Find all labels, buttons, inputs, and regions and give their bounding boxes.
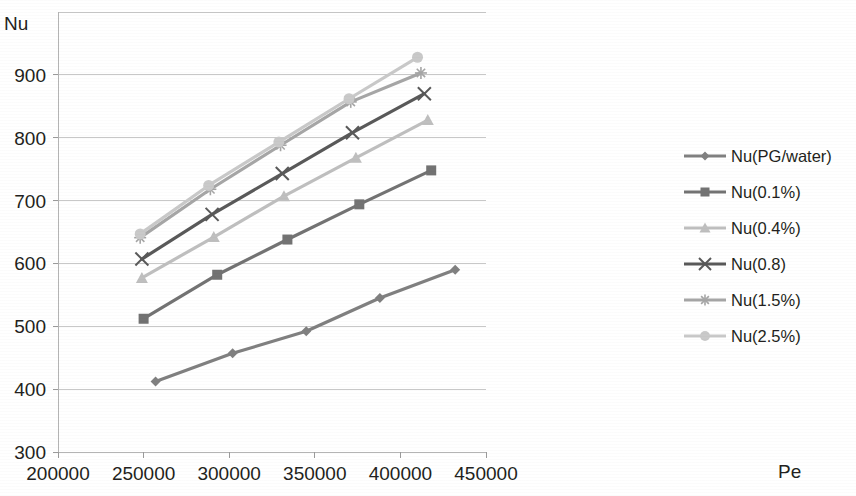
x-tick-label: 200000 <box>26 463 89 484</box>
legend-item-2[interactable]: Nu(0.4%) <box>684 219 801 237</box>
legend-label: Nu(2.5%) <box>731 327 801 345</box>
marker-circle <box>273 137 284 148</box>
y-tick-label: 600 <box>14 253 46 274</box>
x-tick-label: 350000 <box>283 463 346 484</box>
x-tick-label: 300000 <box>197 463 260 484</box>
marker-diamond <box>450 265 460 275</box>
marker-circle <box>700 331 710 341</box>
legend-item-5[interactable]: Nu(2.5%) <box>684 327 801 345</box>
marker-diamond <box>701 152 710 161</box>
x-tick-label: 400000 <box>369 463 432 484</box>
x-axis-tick-labels: 200000250000300000350000400000450000 <box>26 463 517 484</box>
marker-triangle <box>422 114 434 125</box>
marker-circle <box>412 52 423 63</box>
line-chart: 300400500600700800900 200000250000300000… <box>0 0 856 496</box>
y-tick-label: 300 <box>14 442 46 463</box>
marker-square <box>212 270 222 280</box>
marker-square <box>354 199 364 209</box>
gridlines <box>58 12 486 452</box>
marker-cross <box>418 87 431 100</box>
marker-circle <box>344 93 355 104</box>
marker-square <box>426 165 436 175</box>
legend-item-0[interactable]: Nu(PG/water) <box>684 147 832 165</box>
legend-label: Nu(0.4%) <box>731 219 801 237</box>
legend-label: Nu(0.1%) <box>731 183 801 201</box>
y-tick-label: 700 <box>14 191 46 212</box>
series-4 <box>134 67 427 244</box>
x-tick-label: 250000 <box>112 463 175 484</box>
marker-circle <box>135 228 146 239</box>
chart-container: 300400500600700800900 200000250000300000… <box>0 0 856 496</box>
legend-item-3[interactable]: Nu(0.8) <box>684 255 786 273</box>
marker-diamond <box>375 293 385 303</box>
marker-square <box>282 235 292 245</box>
legend-item-1[interactable]: Nu(0.1%) <box>684 183 801 201</box>
marker-cross <box>206 208 219 221</box>
chart-legend: Nu(PG/water)Nu(0.1%)Nu(0.4%)Nu(0.8)Nu(1.… <box>684 147 832 345</box>
y-axis-title: Nu <box>4 13 28 34</box>
y-axis-tick-labels: 300400500600700800900 <box>14 65 46 463</box>
marker-square <box>139 314 149 324</box>
marker-square <box>701 188 710 197</box>
legend-label: Nu(PG/water) <box>731 147 832 165</box>
series-0 <box>151 265 461 387</box>
marker-circle <box>203 180 214 191</box>
marker-diamond <box>151 377 161 387</box>
x-axis-title: Pe <box>778 461 801 482</box>
marker-triangle <box>208 231 220 242</box>
y-tick-label: 800 <box>14 128 46 149</box>
x-tick-label: 450000 <box>454 463 517 484</box>
marker-asterisk <box>700 295 711 306</box>
series-1 <box>139 165 437 323</box>
legend-label: Nu(1.5%) <box>731 291 801 309</box>
marker-diamond <box>228 348 238 358</box>
y-tick-label: 400 <box>14 379 46 400</box>
y-tick-label: 900 <box>14 65 46 86</box>
data-series-group <box>134 52 460 387</box>
marker-triangle <box>136 272 148 283</box>
marker-asterisk <box>415 67 427 79</box>
marker-diamond <box>301 326 311 336</box>
x-axis-ticks <box>58 452 486 458</box>
marker-cross <box>276 167 289 180</box>
legend-item-4[interactable]: Nu(1.5%) <box>684 291 801 309</box>
legend-label: Nu(0.8) <box>731 255 786 273</box>
y-tick-label: 500 <box>14 316 46 337</box>
